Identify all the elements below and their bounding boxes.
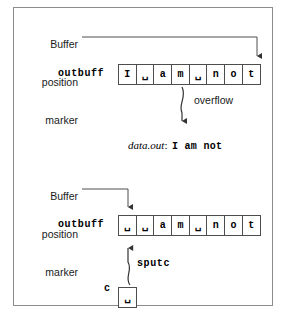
buffer-cell: n [206,64,225,85]
buffer-cell: ␣ [118,215,137,236]
overflow-label: overflow [194,94,233,106]
buffer-cell: ␣ [136,64,155,85]
char-variable-box: ␣ [118,287,137,308]
data-out-value: I am not [172,141,222,152]
buffer-cell: ␣ [189,215,208,236]
outbuff-cell-array-top: I ␣ a m ␣ n o t [118,64,261,85]
char-variable-label: c [104,283,110,294]
buffer-cell: m [171,215,190,236]
buffer-cell: a [153,215,172,236]
buffer-cell: a [153,64,172,85]
buffer-cell: m [171,64,190,85]
buffer-cell: I [118,64,137,85]
marker-label-line-1: Buffer [22,190,78,203]
buffer-cell: ␣ [136,215,155,236]
buffer-cell: o [224,215,243,236]
diagram-root: Buffer position marker outbuff I ␣ a m ␣… [0,0,287,319]
buffer-position-marker-label-bottom: Buffer position marker [22,165,78,304]
outbuff-label-bottom: outbuff [58,219,104,230]
buffer-cell: ␣ [189,64,208,85]
marker-label-line-1: Buffer [22,38,78,51]
outbuff-label-top: outbuff [58,68,104,79]
buffer-cell: n [206,215,225,236]
marker-label-line-3: marker [22,266,78,279]
buffer-cell: o [224,64,243,85]
data-out-separator: : [164,139,167,151]
data-out-line: data.out: I am not [128,135,222,153]
buffer-cell: t [242,64,261,85]
buffer-cell: t [242,215,261,236]
marker-label-line-3: marker [22,114,78,127]
data-out-stream-name: data.out [128,139,164,151]
sputc-label: sputc [137,258,170,269]
outbuff-cell-array-bottom: ␣ ␣ a m ␣ n o t [118,215,261,236]
buffer-position-marker-label-top: Buffer position marker [22,13,78,152]
